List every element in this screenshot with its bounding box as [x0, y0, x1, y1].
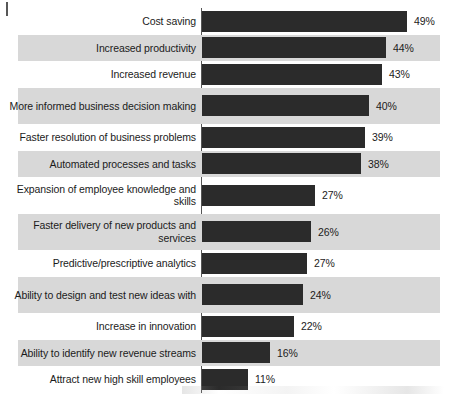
bar-value-label: 27% — [322, 189, 343, 201]
bar-group: 22% — [202, 313, 322, 340]
bar — [202, 64, 382, 85]
bar-value-label: 24% — [310, 289, 331, 301]
bar-value-label: 38% — [368, 158, 389, 170]
bar — [202, 185, 315, 206]
chart-row: More informed business decision making40… — [0, 88, 451, 125]
bar-group: 27% — [202, 250, 335, 277]
chart-row: Increased productivity44% — [0, 35, 451, 62]
bar-value-label: 49% — [414, 15, 435, 27]
chart-row: Predictive/prescriptive analytics27% — [0, 250, 451, 277]
bar-value-label: 39% — [372, 131, 393, 143]
bar-value-label: 26% — [318, 226, 339, 238]
bar-group: 26% — [202, 214, 339, 251]
horizontal-bar-chart: Cost saving49%Increased productivity44%I… — [0, 0, 451, 404]
bar-group: 43% — [202, 61, 410, 88]
category-label: More informed business decision making — [8, 100, 196, 113]
category-label: Faster delivery of new products and serv… — [8, 219, 196, 244]
bar-group: 49% — [202, 8, 435, 35]
chart-row: Increased revenue43% — [0, 61, 451, 88]
bar-value-label: 44% — [393, 42, 414, 54]
bar-group: 40% — [202, 88, 397, 125]
bar-group: 38% — [202, 151, 389, 178]
category-label: Increased productivity — [8, 42, 196, 55]
bar — [202, 11, 407, 32]
category-label: Increased revenue — [8, 68, 196, 81]
bar — [202, 342, 270, 363]
category-label: Increase in innovation — [8, 320, 196, 333]
chart-row: Automated processes and tasks38% — [0, 151, 451, 178]
bar-group: 16% — [202, 340, 298, 367]
chart-row: Faster delivery of new products and serv… — [0, 214, 451, 251]
bar-value-label: 27% — [314, 257, 335, 269]
bar-value-label: 16% — [277, 347, 298, 359]
bar-group: 39% — [202, 124, 393, 151]
category-label: Faster resolution of business problems — [8, 131, 196, 144]
bar — [202, 221, 311, 242]
bar — [202, 284, 303, 305]
chart-row: Cost saving49% — [0, 8, 451, 35]
bar-group: 24% — [202, 277, 331, 314]
category-label: Automated processes and tasks — [8, 158, 196, 171]
bar-group: 27% — [202, 177, 343, 214]
chart-row: Increase in innovation22% — [0, 313, 451, 340]
bar — [202, 153, 361, 174]
chart-rows: Cost saving49%Increased productivity44%I… — [0, 8, 451, 393]
bar — [202, 37, 386, 58]
bar-value-label: 43% — [389, 68, 410, 80]
category-label: Predictive/prescriptive analytics — [8, 257, 196, 270]
chart-row: Ability to identify new revenue streams1… — [0, 340, 451, 367]
bar-group: 44% — [202, 35, 414, 62]
chart-row: Faster resolution of business problems39… — [0, 124, 451, 151]
chart-row: Ability to design and test new ideas wit… — [0, 277, 451, 314]
bar — [202, 316, 294, 337]
chart-row: Expansion of employee knowledge and skil… — [0, 177, 451, 214]
category-label: Expansion of employee knowledge and skil… — [8, 183, 196, 208]
category-label: Ability to identify new revenue streams — [8, 347, 196, 360]
bar — [202, 95, 369, 116]
category-label: Cost saving — [8, 15, 196, 28]
footer-scan-smudge — [182, 386, 444, 394]
bar — [202, 253, 307, 274]
category-label: Ability to design and test new ideas wit… — [8, 289, 196, 302]
bar — [202, 127, 365, 148]
bar-value-label: 40% — [376, 100, 397, 112]
bar-value-label: 22% — [301, 320, 322, 332]
bar-value-label: 11% — [255, 373, 275, 385]
category-label: Attract new high skill employees — [8, 373, 196, 386]
